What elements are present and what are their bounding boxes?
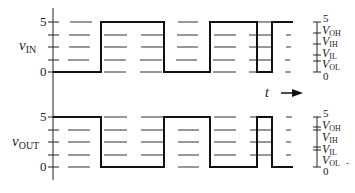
time-label: t (265, 85, 270, 100)
vin-tick-0: 0 (40, 64, 47, 79)
vout-level-scale: 5 VOH VIH VIL VOL 0 . (313, 107, 349, 177)
vin-level-scale: 5 VOH VIH VIL VOL 0 (313, 12, 341, 82)
vin-scale-0: 0 (323, 70, 329, 82)
vin-tick-5: 5 (40, 14, 47, 29)
vout-scale-0: 0 (323, 165, 329, 177)
vout-tick-5: 5 (40, 109, 47, 124)
timing-diagram: 5 0 vIN t (0, 0, 355, 193)
vout-label: vOUT (12, 133, 39, 151)
plot-vin: 5 0 vIN (19, 8, 293, 98)
plot-vout: 5 0 vOUT (12, 98, 293, 180)
vin-label: vIN (19, 37, 36, 55)
vout-tick-0: 0 (40, 159, 47, 174)
right-arrow-icon (281, 89, 303, 97)
vout-trailing-mark: . (346, 154, 349, 166)
time-axis-indicator: t (265, 85, 303, 100)
